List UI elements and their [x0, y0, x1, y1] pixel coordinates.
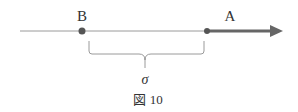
diagram-canvas: B A σ 図 10 — [0, 0, 298, 112]
point-a — [204, 28, 210, 34]
point-b-label: B — [77, 8, 87, 24]
brace — [89, 41, 204, 68]
sigma-label: σ — [142, 72, 150, 87]
figure-caption: 図 10 — [133, 92, 162, 107]
point-a-label: A — [225, 8, 236, 24]
point-b — [79, 28, 86, 35]
arrow-head-icon — [270, 25, 283, 37]
